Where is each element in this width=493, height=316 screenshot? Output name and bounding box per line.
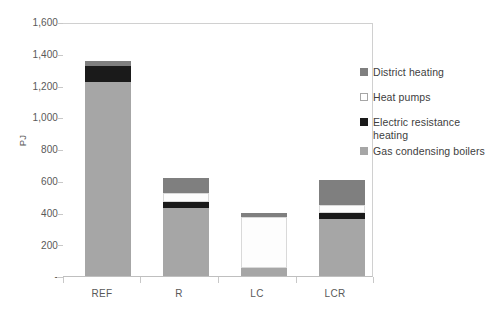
bar-segment-gas-condensing <box>319 219 365 276</box>
plot-area <box>63 23 373 277</box>
y-axis-tick-labels: 1,600 1,400 1,200 1,000 800 600 400 200 … <box>6 0 58 316</box>
bar-segment-gas-condensing <box>241 268 287 276</box>
y-tick-label: 800 <box>12 145 58 155</box>
bar-segment-electric-resistance <box>85 66 131 81</box>
legend-label: Electric resistance heating <box>373 116 491 142</box>
legend-label: District heating <box>373 66 444 79</box>
x-axis-label-r: R <box>134 288 224 299</box>
y-tick-label: - <box>12 272 58 282</box>
bar-ref[interactable] <box>85 61 131 276</box>
legend-item-electric-resistance-heating[interactable]: Electric resistance heating <box>360 116 491 142</box>
bar-lc[interactable] <box>241 213 287 276</box>
bar-segment-district-heating <box>319 180 365 205</box>
heat-pumps-swatch-icon <box>360 93 368 101</box>
y-tick-label: 1,000 <box>12 113 58 123</box>
y-tick-label: 200 <box>12 241 58 251</box>
x-tick-mark <box>140 277 141 283</box>
x-tick-mark <box>296 277 297 283</box>
bar-segment-gas-condensing <box>163 208 209 276</box>
y-tick-label: 400 <box>12 209 58 219</box>
chart-legend: District heating Heat pumps Electric res… <box>360 66 491 161</box>
legend-item-district-heating[interactable]: District heating <box>360 66 491 79</box>
x-tick-mark <box>218 277 219 283</box>
legend-label: Gas condensing boilers <box>373 145 485 158</box>
y-tick-label: 1,600 <box>12 18 58 28</box>
bar-segment-gas-condensing <box>85 82 131 277</box>
x-axis-label-lcr: LCR <box>290 288 380 299</box>
x-axis-label-lc: LC <box>212 288 302 299</box>
stacked-bar-chart: PJ 1,600 1,400 1,200 1,000 800 600 400 2… <box>0 0 493 316</box>
legend-item-heat-pumps[interactable]: Heat pumps <box>360 91 491 104</box>
bar-segment-heat-pumps <box>241 217 287 268</box>
legend-item-gas-condensing-boilers[interactable]: Gas condensing boilers <box>360 145 491 158</box>
bar-segment-heat-pumps <box>163 193 209 202</box>
y-tick-label: 1,400 <box>12 50 58 60</box>
y-tick-label: 600 <box>12 177 58 187</box>
x-tick-mark <box>373 277 374 283</box>
bar-segment-district-heating <box>163 178 209 194</box>
gas-condensing-swatch-icon <box>360 147 368 155</box>
x-tick-mark <box>63 277 64 283</box>
y-tick-label: 1,200 <box>12 82 58 92</box>
bar-r[interactable] <box>163 178 209 276</box>
bar-lcr[interactable] <box>319 180 365 276</box>
bar-segment-heat-pumps <box>319 205 365 214</box>
electric-resistance-swatch-icon <box>360 118 368 126</box>
legend-label: Heat pumps <box>373 91 431 104</box>
district-heating-swatch-icon <box>360 68 368 76</box>
